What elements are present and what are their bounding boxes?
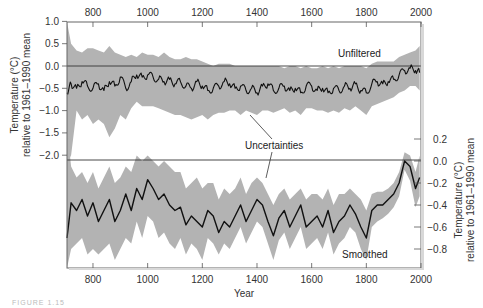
top-tick-label: 800 (85, 7, 102, 18)
top-tick-label: 1600 (301, 7, 324, 18)
right-y-axis-title: Temperature (°C) relative to 1961–1990 m… (453, 138, 476, 262)
right-tick-label: −0.4 (427, 200, 447, 211)
bottom-tick-label: 800 (85, 274, 102, 285)
smoothed-label: Smoothed (342, 249, 388, 260)
right-tick-label: 0.0 (433, 156, 447, 167)
x-axis-title: Year (234, 288, 255, 299)
uncertainties-leader-lower (266, 152, 272, 178)
top-tick-label: 1000 (137, 7, 160, 18)
uncertainty-band-area (67, 128, 420, 268)
left-tick-label: −1.5 (39, 127, 59, 138)
uncertainties-leader-upper (250, 115, 272, 139)
left-tick-label: −0.5 (39, 83, 59, 94)
left-tick-label: 1.0 (45, 16, 59, 27)
right-tick-label: 0.2 (433, 134, 447, 145)
bottom-tick-label: 1200 (191, 274, 214, 285)
right-y-axis-title-line1: Temperature (°C) (453, 162, 464, 239)
right-y-axis-title-line2: relative to 1961–1990 mean (465, 138, 476, 262)
left-tick-label: −2.0 (39, 150, 59, 161)
bottom-tick-label: 2000 (410, 274, 433, 285)
top-tick-label: 1800 (355, 7, 378, 18)
temperature-reconstruction-chart: 800100012001400160018002000 800100012001… (0, 0, 483, 308)
lower-uncertainty-band (67, 128, 420, 268)
right-tick-label: −0.8 (427, 244, 447, 255)
top-tick-label: 2000 (410, 7, 433, 18)
right-tick-label: −0.2 (427, 178, 447, 189)
bottom-tick-label: 1800 (355, 274, 378, 285)
left-y-axis-title-line1: Temperature (°C) (9, 57, 20, 134)
uncertainties-label: Uncertainties (245, 140, 303, 151)
frame-shadow-bottom (69, 268, 424, 270)
bottom-tick-label: 1400 (246, 274, 269, 285)
left-tick-label: 0.0 (45, 61, 59, 72)
left-tick-label: −1.0 (39, 105, 59, 116)
bottom-x-axis: 800100012001400160018002000 (85, 263, 433, 285)
frame-shadow-right (421, 24, 424, 270)
left-tick-label: 0.5 (45, 38, 59, 49)
top-tick-label: 1400 (246, 7, 269, 18)
bottom-tick-label: 1000 (137, 274, 160, 285)
right-tick-label: −0.6 (427, 222, 447, 233)
left-y-axis: 1.00.50.0−0.5−1.0−1.5−2.0 (39, 16, 67, 161)
bottom-tick-label: 1600 (301, 274, 324, 285)
figure-caption: FIGURE 1.15 (12, 299, 65, 306)
left-y-axis-title-line2: relative to 1961–1990 mean (21, 33, 32, 157)
unfiltered-label: Unfiltered (338, 48, 381, 59)
top-x-axis: 800100012001400160018002000 (85, 7, 433, 27)
top-tick-label: 1200 (191, 7, 214, 18)
left-y-axis-title: Temperature (°C) relative to 1961–1990 m… (9, 33, 32, 157)
